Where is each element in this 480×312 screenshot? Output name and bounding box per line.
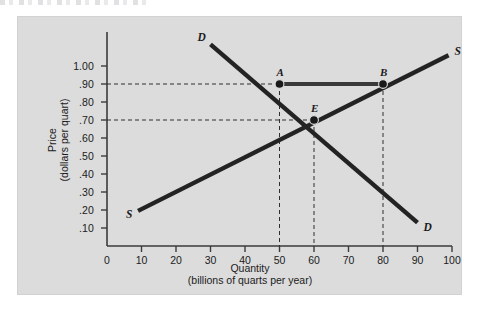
point-label-b: B (380, 66, 387, 78)
y-axis-title-main: Price (46, 70, 58, 210)
curve-label-S: S (455, 45, 461, 57)
x-tick-label: 100 (439, 254, 465, 266)
curve-label-D: D (198, 31, 206, 43)
curve-label-S: S (126, 208, 132, 220)
y-axis-title-sub: (dollars per quart) (58, 70, 70, 210)
x-axis-title-sub: (billions of quarts per year) (150, 274, 350, 286)
point-label-a: A (277, 66, 284, 78)
curve-S (138, 55, 449, 211)
y-tick-label: .10 (60, 222, 94, 234)
x-axis-title: Quantity (billions of quarts per year) (150, 262, 350, 286)
data-point-e (310, 116, 319, 125)
data-point-b (379, 80, 388, 89)
y-axis-title: Price (dollars per quart) (46, 70, 70, 210)
data-points (275, 80, 387, 125)
x-tick-label: 0 (94, 254, 120, 266)
data-point-a (275, 80, 284, 89)
curve-label-D: D (424, 221, 432, 233)
y-tick-marks (101, 66, 107, 228)
x-tick-label: 90 (405, 254, 431, 266)
point-label-e: E (311, 102, 318, 114)
x-axis-title-main: Quantity (150, 262, 350, 274)
figure-root: 1.00.90.80.70.60.50.40.30.20.10 01020304… (0, 0, 480, 312)
x-tick-label: 80 (370, 254, 396, 266)
x-tick-marks (142, 246, 453, 252)
curves (138, 44, 449, 222)
